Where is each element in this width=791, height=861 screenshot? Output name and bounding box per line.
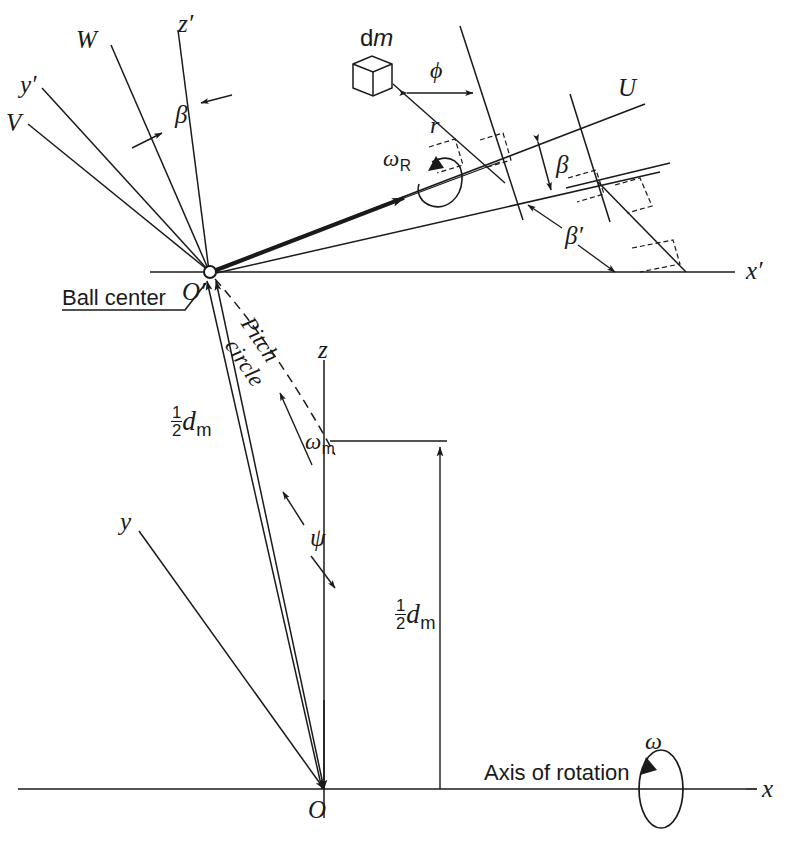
normal-line-right [570, 94, 610, 222]
label-axis-z: z [318, 337, 328, 362]
label-axis-v: V [6, 110, 21, 135]
label-half-dm-right: 12dm [395, 597, 436, 632]
diagram-canvas: V y′ W z′ β dm ϕ r U β β′ ωR x′ O′ Ball … [0, 0, 791, 861]
label-dm-m: m [373, 24, 393, 51]
label-omega-r-sub: R [399, 157, 411, 174]
right-angle-marker-4 [615, 178, 652, 213]
label-d-sub-left: m [196, 419, 212, 440]
label-omega-m-sub: m [321, 440, 335, 457]
label-radius-r: r [430, 113, 439, 137]
inclined-line-lower [212, 172, 660, 274]
axis-line-v [28, 124, 209, 271]
psi-arrow-lower [311, 556, 335, 588]
label-origin-prime: O′ [182, 279, 206, 304]
beta-prime-arrow-upper [528, 205, 562, 228]
label-axis-y: y [120, 509, 131, 534]
beta-angle-arrow-right [538, 142, 551, 190]
right-angle-marker-5 [632, 240, 680, 272]
diagram-vector-layer [0, 0, 791, 861]
label-angle-beta-left: β [175, 102, 187, 127]
normal-line-to-x-prime [598, 182, 686, 272]
label-dm-d: d [360, 24, 373, 51]
label-axis-x: x [762, 776, 773, 801]
label-d-symbol-left: d [182, 406, 196, 436]
label-axis-x-prime: x′ [746, 258, 763, 283]
omega-r-vector-arrow [212, 198, 404, 272]
label-omega: ω [645, 729, 662, 753]
label-omega-m: ωm [305, 430, 335, 457]
beta-arrow-right [201, 95, 232, 103]
dm-cube-icon [353, 56, 392, 96]
fraction-half-right: 12 [395, 597, 406, 632]
label-axis-of-rotation: Axis of rotation [484, 762, 630, 784]
label-dm: dm [360, 26, 393, 50]
fraction-half-left: 12 [171, 404, 182, 439]
label-d-symbol-right: d [406, 599, 420, 629]
fraction-denominator-right: 2 [395, 614, 406, 632]
label-angle-psi: ψ [310, 525, 326, 550]
label-origin: O [308, 797, 326, 822]
label-angle-beta-prime: β′ [565, 223, 583, 248]
label-omega-m-base: ω [305, 429, 321, 454]
ball-center-point-marker [204, 266, 216, 278]
label-axis-z-prime: z′ [178, 11, 193, 36]
psi-arrow-upper [283, 492, 304, 525]
label-axis-u: U [618, 75, 636, 100]
label-angle-beta-right: β [556, 152, 568, 177]
label-half-dm-left: 12dm [171, 404, 212, 439]
fraction-denominator-left: 2 [171, 421, 182, 439]
normal-line-through-dm [460, 26, 523, 220]
label-angle-phi: ϕ [430, 58, 442, 82]
fraction-numerator-right: 1 [395, 597, 406, 614]
label-axis-y-prime: y′ [20, 72, 37, 97]
label-omega-r-base: ω [383, 146, 399, 171]
label-d-sub-right: m [420, 612, 436, 633]
label-omega-r: ωR [383, 147, 411, 174]
label-ball-center: Ball center [62, 287, 166, 309]
label-axis-w: W [76, 27, 97, 52]
beta-arrow-left [132, 133, 162, 148]
fraction-numerator-left: 1 [171, 404, 182, 421]
beta-prime-arrow-lower [578, 245, 615, 272]
